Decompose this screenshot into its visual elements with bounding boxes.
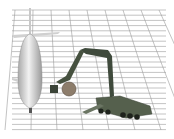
aircraft-lower-wing bbox=[12, 78, 18, 82]
aircraft bbox=[12, 8, 60, 113]
rendered-scene bbox=[0, 0, 174, 139]
wheel bbox=[134, 114, 140, 120]
aircraft-tail-fin bbox=[29, 8, 31, 38]
wheel bbox=[105, 109, 110, 114]
aircraft-nose-gear bbox=[29, 108, 32, 113]
robot-tool-disc bbox=[62, 82, 76, 96]
aircraft-wing bbox=[12, 32, 60, 38]
robot-tool-head bbox=[50, 85, 58, 93]
wheel bbox=[120, 112, 126, 118]
aircraft-fuselage bbox=[18, 34, 42, 108]
grid-line-vertical bbox=[159, 10, 174, 130]
wheel bbox=[98, 108, 103, 113]
grid-line-vertical bbox=[5, 10, 15, 130]
robot-arm-upper bbox=[80, 48, 114, 98]
grid-line-vertical bbox=[51, 10, 57, 130]
wheel bbox=[127, 113, 133, 119]
